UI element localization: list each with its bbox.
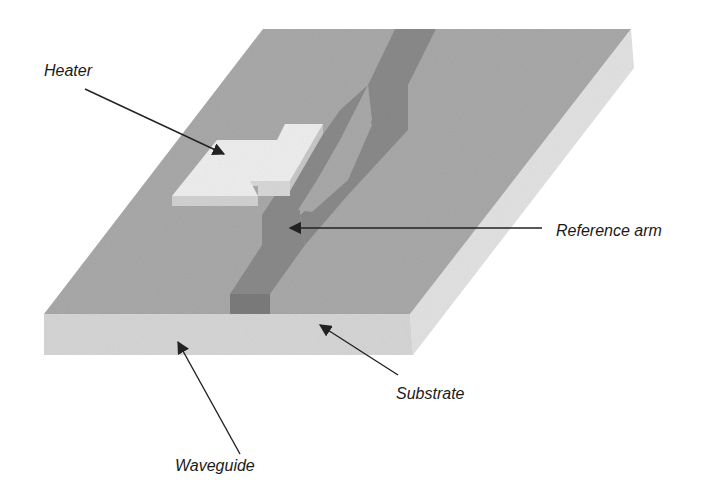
mzi-diagram: [0, 0, 721, 503]
waveguide-end-face: [230, 294, 270, 314]
reference-arm-label: Reference arm: [556, 223, 662, 239]
substrate-label: Substrate: [396, 386, 464, 402]
waveguide-arrow: [178, 342, 240, 454]
heater-label: Heater: [44, 63, 92, 79]
waveguide-label: Waveguide: [175, 458, 255, 474]
heater-front-face: [172, 196, 258, 206]
